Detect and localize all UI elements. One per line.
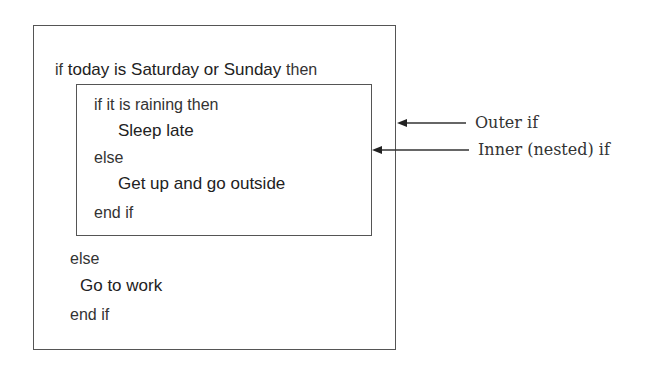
inner-if-label: Inner (nested) if bbox=[478, 140, 610, 160]
annotation-arrows bbox=[0, 0, 665, 372]
outer-if-label: Outer if bbox=[475, 113, 538, 133]
inner-arrow-icon bbox=[372, 146, 469, 154]
outer-arrow-icon bbox=[397, 119, 466, 127]
